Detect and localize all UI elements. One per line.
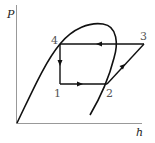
point-label-1: 1 [54, 87, 61, 100]
y-axis-label: P [6, 8, 15, 21]
saturation-dome-curve [17, 24, 116, 123]
ph-diagram: P h 4 3 1 2 [0, 0, 155, 143]
point-label-2: 2 [106, 87, 113, 100]
point-label-3: 3 [140, 30, 147, 43]
arrow-left-icon [96, 42, 102, 47]
arrow-right-icon [77, 82, 83, 87]
point-label-4: 4 [51, 34, 58, 47]
x-axis-label: h [136, 126, 143, 139]
arrow-down-icon [58, 60, 63, 66]
